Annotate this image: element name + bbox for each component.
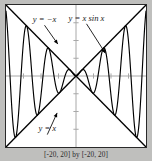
figure-container: y = −x y = x sin x y = x [-20, 20] by [-… <box>0 0 152 161</box>
label-envelope-upper: y = −x <box>32 14 57 24</box>
plot-area: y = −x y = x sin x y = x <box>5 4 147 148</box>
leader-line-curve <box>87 24 106 53</box>
viewing-window-caption: [-20, 20] by [-20, 20] <box>0 150 152 159</box>
label-envelope-lower: y = x <box>37 123 56 133</box>
annotation-labels: y = −x y = x sin x y = x <box>32 13 105 134</box>
label-curve: y = x sin x <box>68 13 105 23</box>
arrowhead-envelope-upper <box>54 40 58 45</box>
chart-svg: y = −x y = x sin x y = x <box>6 5 146 147</box>
